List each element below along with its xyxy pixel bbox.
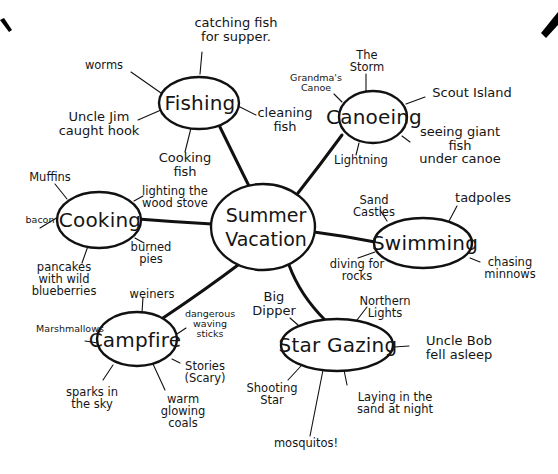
node-canoeing: Canoeing	[326, 107, 422, 128]
leaf-uncle-jim: Uncle Jim caught hook	[59, 110, 140, 137]
leaf-chasing-minnows: chasing minnows	[484, 256, 535, 280]
leaf-big-dipper: Big Dipper	[252, 290, 295, 317]
leaf-dangerous-waving-sticks: dangerous waving sticks	[185, 309, 235, 339]
leaf-catching-fish: catching fish for supper.	[194, 16, 277, 43]
leaf-lightning: Lightning	[334, 154, 388, 166]
leaf-weiners: weiners	[130, 288, 175, 300]
leaf-burned-pies: burned pies	[131, 241, 172, 265]
leaf-warm-glowing-coals: warm glowing coals	[161, 393, 206, 429]
leaf-muffins: Muffins	[29, 171, 71, 183]
leaf-bacon: bacon	[26, 215, 55, 225]
leaf-worms: worms	[85, 59, 123, 71]
leaf-marshmallows: Marshmallows	[36, 324, 104, 334]
node-fishing: Fishing	[164, 93, 235, 114]
leaf-the-storm: The Storm	[350, 49, 385, 73]
leaf-cleaning-fish: cleaning fish	[257, 106, 312, 133]
leaf-lighting-wood-stove: lighting the wood stove	[142, 185, 208, 209]
leaf-grandmas-canoe: Grandma's Canoe	[290, 73, 342, 93]
leaf-seeing-giant-fish: seeing giant fish under canoe	[411, 125, 509, 166]
center-topic: Summer Vacation	[225, 204, 307, 252]
leaf-shooting-star: Shooting Star	[247, 382, 298, 406]
leaf-pancakes: pancakes with wild blueberries	[32, 261, 97, 297]
leaf-laying-in-sand: Laying in the sand at night	[357, 391, 433, 415]
leaf-stories-scary: Stories (Scary)	[184, 360, 225, 384]
leaf-uncle-bob: Uncle Bob fell asleep	[426, 334, 493, 361]
corner-mark-right	[541, 12, 558, 38]
corner-mark-left	[0, 18, 12, 32]
node-cooking: Cooking	[59, 210, 141, 231]
leaf-scout-island: Scout Island	[432, 86, 512, 100]
leaf-diving-for-rocks: diving for rocks	[330, 258, 385, 282]
leaf-sparks-in-sky: sparks in the sky	[66, 386, 118, 410]
node-swimming: Swimming	[372, 233, 478, 254]
leaf-northern-lights: Northern Lights	[359, 295, 410, 319]
node-star-gazing: Star Gazing	[279, 335, 398, 356]
leaf-tadpoles: tadpoles	[455, 191, 511, 205]
leaf-sand-castles: Sand Castles	[353, 194, 395, 218]
leaf-mosquitos: mosquitos!	[274, 437, 338, 449]
leaf-cooking-fish: Cooking fish	[159, 151, 212, 178]
